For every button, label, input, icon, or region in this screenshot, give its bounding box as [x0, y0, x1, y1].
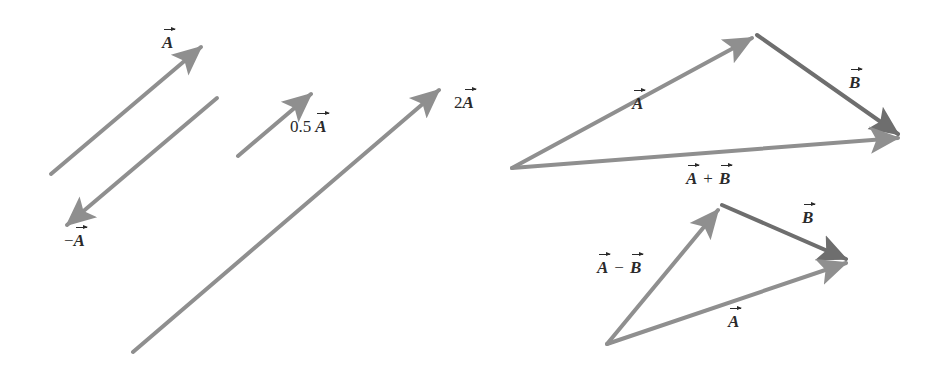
label-half-a: 0.5A — [290, 112, 327, 135]
label-sum-triangle-a: A — [632, 89, 643, 112]
label-diff-triangle-b: B — [802, 203, 813, 226]
label-a-plus-b: A+B — [686, 164, 730, 187]
label-a: A — [162, 28, 173, 51]
vector-symbol: A — [463, 88, 474, 111]
vector-neg-a-arrow — [67, 98, 217, 225]
diff-triangle-b-arrow — [722, 205, 846, 259]
plus-operator: + — [703, 169, 713, 188]
label-two-a: 2A — [454, 88, 474, 111]
vector-symbol: A — [632, 89, 643, 112]
label-sum-triangle-b: B — [849, 68, 860, 91]
label-neg-a: −A — [64, 226, 85, 249]
label-diff-triangle-a: A — [728, 307, 739, 330]
minus-operator: − — [614, 258, 624, 277]
coefficient: 0.5 — [290, 117, 311, 136]
coefficient: 2 — [454, 93, 463, 112]
vector-a-arrow — [51, 47, 201, 174]
vector-symbol: A — [728, 307, 739, 330]
vector-symbol: A — [315, 112, 326, 135]
label-a-minus-b: A−B — [597, 253, 641, 276]
sum-triangle-b-arrow — [757, 35, 898, 134]
vector-symbol: A — [162, 28, 173, 51]
negation-sign: − — [64, 231, 74, 250]
vector-diagram — [0, 0, 946, 379]
vector-symbol: A — [686, 164, 697, 187]
vector-symbol: A — [597, 253, 608, 276]
vector-symbol: B — [719, 164, 730, 187]
vector-symbol: A — [74, 226, 85, 249]
vector-symbol: B — [630, 253, 641, 276]
vector-symbol: B — [802, 203, 813, 226]
vector-symbol: B — [849, 68, 860, 91]
